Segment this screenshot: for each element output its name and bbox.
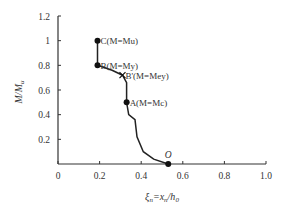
point-label: A(M=Mc) bbox=[130, 98, 168, 108]
y-tick-label: 0.4 bbox=[38, 110, 50, 120]
y-tick-label: 0.8 bbox=[38, 61, 50, 71]
x-tick-label: 0 bbox=[56, 171, 61, 181]
point-label: B(M=My) bbox=[101, 61, 139, 71]
x-axis-label: ξn=xn/h0 bbox=[145, 191, 179, 204]
markers: C(M=Mu)B(M=My)B'(M=Mey)A(M=Mc)O bbox=[95, 36, 172, 167]
y-axis-label: M/Mu bbox=[13, 80, 26, 104]
y-tick-label: 1 bbox=[45, 36, 50, 46]
point-label: O bbox=[165, 150, 172, 160]
y-tick-label: 0.2 bbox=[38, 135, 50, 145]
x-tick-label: 0.8 bbox=[218, 171, 230, 181]
chart: 0.20.40.60.811.2 00.20.40.60.81.0 M/Mu ξ… bbox=[0, 0, 287, 214]
x-tick-label: 0.6 bbox=[177, 171, 189, 181]
x-tick-label: 0.2 bbox=[94, 171, 106, 181]
x-tick-label: 0.4 bbox=[135, 171, 147, 181]
point-marker bbox=[165, 161, 171, 167]
axes bbox=[58, 16, 266, 164]
y-tick-label: 0.6 bbox=[38, 86, 50, 96]
x-tick-label: 1.0 bbox=[260, 171, 272, 181]
y-tick-label: 1.2 bbox=[38, 12, 50, 22]
point-label: C(M=Mu) bbox=[101, 36, 139, 46]
point-label: B'(M=Mey) bbox=[125, 71, 168, 81]
